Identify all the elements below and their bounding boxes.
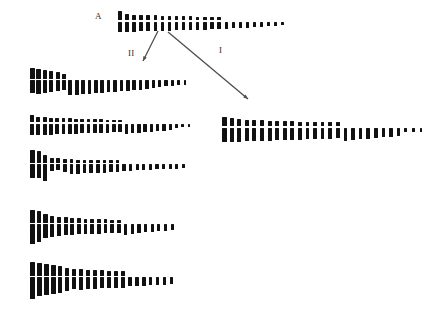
chromosome [230,118,234,142]
chromosome [246,22,249,28]
chromosome [125,14,129,32]
chromosome [175,16,179,30]
chromosome [121,271,125,287]
chromosome [164,80,167,86]
chromosome [366,128,370,139]
chromosome-q-arm [196,22,199,30]
chromosome [43,155,47,181]
chromosome [397,128,400,136]
chromosome [50,158,54,170]
arrow-label-i: I [219,46,222,55]
chromosome-p-arm [93,270,97,276]
chromosome [151,224,154,232]
chromosome-q-arm [136,164,139,170]
chromosome [225,22,228,29]
chromosome-q-arm [70,164,74,174]
chromosome [100,80,104,93]
chromosome-p-arm [104,219,108,223]
chromosome [116,160,120,172]
chromosome-p-arm [83,160,87,163]
chromosome [56,72,60,91]
karyotype-left-4 [30,209,185,244]
chromosome-p-arm [313,122,317,127]
chromosome [328,122,332,138]
chromosome-q-arm [137,224,140,233]
chromosome-p-arm [112,120,116,123]
chromosome [117,220,121,233]
chromosome-q-arm [344,128,348,141]
chromosome-q-arm [79,277,83,290]
chromosome [351,128,355,140]
chromosome-p-arm [56,72,60,79]
chromosome [37,151,41,178]
chromosome-q-arm [125,22,129,33]
chromosome [182,164,185,168]
chromosome [290,121,294,139]
chromosome-p-arm [107,271,111,276]
chromosome [245,120,249,141]
chromosome [106,120,110,133]
chromosome-p-arm [328,122,332,126]
chromosome-q-arm [184,80,187,85]
chromosome-q-arm [245,128,249,142]
chromosome [359,128,363,140]
chromosome-q-arm [113,80,117,92]
chromosome [100,270,104,288]
chromosome-p-arm [132,15,136,21]
chromosome-p-arm [217,17,220,20]
chromosome-q-arm [125,124,129,135]
chromosome-q-arm [161,22,165,31]
chromosome-q-arm [114,277,118,288]
chromosome [70,159,74,174]
chromosome [51,265,56,294]
chromosome [142,277,146,286]
chromosome-q-arm [374,128,378,138]
chromosome-p-arm [90,219,94,223]
chromosome-q-arm [189,22,192,30]
chromosome [144,224,147,232]
chromosome-p-arm [62,118,66,122]
chromosome-q-arm [99,124,103,133]
chromosome-p-arm [196,17,199,21]
chromosome-q-arm [72,277,76,289]
chromosome [97,219,101,234]
chromosome [87,119,91,133]
chromosome-q-arm [36,80,40,94]
chromosome [163,277,166,285]
chromosome-q-arm [283,128,287,141]
chromosome [222,117,227,141]
chromosome-p-arm [68,118,72,122]
chromosome-p-arm [43,214,47,223]
chromosome-p-arm [80,119,84,123]
chromosome-q-arm [49,124,53,135]
chromosome-q-arm [37,277,42,296]
chromosome-q-arm [181,124,184,128]
chromosome-p-arm [44,264,49,276]
chromosome-p-arm [74,119,78,123]
chromosome-q-arm [170,277,173,284]
chromosome-p-arm [109,160,113,163]
chromosome-q-arm [164,224,167,231]
chromosome [56,158,60,170]
chromosome-q-arm [58,277,62,293]
chromosome-p-arm [139,15,143,20]
chromosome-q-arm [118,124,122,133]
chromosome-q-arm [112,124,116,133]
chromosome-p-arm [64,217,68,223]
chromosome [168,16,172,31]
chromosome [86,270,90,289]
chromosome-q-arm [157,224,160,231]
chromosome [90,219,94,234]
chromosome [217,17,220,29]
chromosome [184,80,187,85]
chromosome-p-arm [70,159,74,163]
chromosome-p-arm [37,211,42,223]
chromosome-q-arm [126,80,130,91]
chromosome-q-arm [162,164,165,169]
karyotype-left-5 [30,261,185,299]
chromosome [175,164,178,169]
arrow-head [143,56,147,61]
chromosome [110,220,114,233]
chromosome-p-arm [30,210,35,223]
chromosome-p-arm [161,16,165,21]
